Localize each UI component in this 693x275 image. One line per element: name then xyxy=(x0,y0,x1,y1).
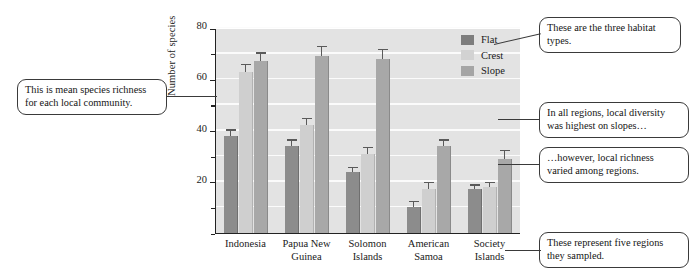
bar-crest[interactable] xyxy=(239,72,253,233)
error-bar-stem xyxy=(382,49,383,59)
x-axis-label-line1: Papua New xyxy=(276,238,337,251)
x-axis-labels: IndonesiaPapua NewGuineaSolomonIslandsAm… xyxy=(215,238,520,274)
callout-varied-regions: …however, local richness varied among re… xyxy=(539,147,689,183)
error-bar-stem xyxy=(260,52,261,61)
error-bar-cap xyxy=(302,118,312,119)
bar-body xyxy=(224,136,239,233)
bar-group xyxy=(338,29,399,233)
x-axis-label: AmericanSamoa xyxy=(398,238,459,263)
x-axis-label: Indonesia xyxy=(215,238,276,251)
legend-swatch-slope xyxy=(461,66,474,76)
bar-slope[interactable] xyxy=(254,61,268,233)
legend-swatch-crest xyxy=(461,50,474,60)
legend-label: Slope xyxy=(481,65,505,76)
legend-item-slope[interactable]: Slope xyxy=(461,63,505,79)
y-tick-label: 40 xyxy=(197,124,208,135)
callout-mean-richness: This is mean species richness for each l… xyxy=(17,79,167,115)
error-bar-cap xyxy=(424,182,434,183)
bar-crest[interactable] xyxy=(300,125,314,233)
error-bar-cap xyxy=(470,184,480,185)
callout-diversity-slopes-text: In all regions, local diversity was high… xyxy=(547,107,665,131)
leader-line-mean-richness xyxy=(167,96,217,97)
bar-group xyxy=(277,29,338,233)
x-axis-label-line1: American xyxy=(398,238,459,251)
x-axis-label-line1: Solomon xyxy=(337,238,398,251)
x-axis-label: SolomonIslands xyxy=(337,238,398,263)
legend-item-flat[interactable]: Flat xyxy=(461,32,505,48)
callout-habitat-types-text: These are the three habitat types. xyxy=(547,22,656,46)
bar-slope[interactable] xyxy=(315,56,329,233)
bar-body xyxy=(239,72,254,233)
bar-crest[interactable] xyxy=(422,189,436,233)
x-axis-label-line2: Islands xyxy=(337,251,398,264)
error-bar-cap xyxy=(256,52,266,53)
figure-container: Number of species 20406080 IndonesiaPapu… xyxy=(0,0,693,275)
bar-flat[interactable] xyxy=(407,207,421,233)
error-bar-cap xyxy=(348,167,358,168)
bar-slope[interactable] xyxy=(498,159,512,233)
error-bar-stem xyxy=(504,150,505,159)
error-bar-cap xyxy=(439,139,449,140)
bar-body xyxy=(346,172,361,234)
bar-body xyxy=(437,146,452,233)
error-bar-cap xyxy=(317,46,327,47)
callout-varied-regions-text: …however, local richness varied among re… xyxy=(547,152,654,176)
callout-diversity-slopes: In all regions, local diversity was high… xyxy=(539,102,689,138)
y-tick-label: 60 xyxy=(197,72,208,83)
callout-five-regions: These represent five regions they sample… xyxy=(539,232,689,268)
bar-body xyxy=(422,189,437,233)
error-bar-cap xyxy=(485,182,495,183)
bar-body xyxy=(361,154,376,233)
bar-body xyxy=(285,146,300,233)
error-bar-cap xyxy=(378,49,388,50)
x-axis-label-line2: Islands xyxy=(459,251,520,264)
leader-line-five-regions xyxy=(505,250,541,251)
error-bar-cap xyxy=(241,64,251,65)
x-axis-label-line2: Guinea xyxy=(276,251,337,264)
x-axis-label-line1: Indonesia xyxy=(215,238,276,251)
callout-five-regions-text: These represent five regions they sample… xyxy=(547,237,663,261)
bar-crest[interactable] xyxy=(483,187,497,233)
x-axis-label-line2: Samoa xyxy=(398,251,459,264)
y-tick-label: 20 xyxy=(197,175,208,186)
error-bar-stem xyxy=(321,46,322,56)
error-bar-cap xyxy=(363,147,373,148)
error-bar-cap xyxy=(500,150,510,151)
bar-body xyxy=(254,61,269,233)
bar-slope[interactable] xyxy=(376,59,390,233)
chart-legend: FlatCrestSlope xyxy=(461,32,505,79)
x-axis-label: Papua NewGuinea xyxy=(276,238,337,263)
bar-body xyxy=(407,207,422,233)
error-bar-cap xyxy=(287,139,297,140)
bar-body xyxy=(315,56,330,233)
x-axis-label-line1: Society xyxy=(459,238,520,251)
legend-swatch-flat xyxy=(461,35,474,45)
bar-body xyxy=(300,125,315,233)
bar-flat[interactable] xyxy=(285,146,299,233)
bar-body xyxy=(483,187,498,233)
legend-item-crest[interactable]: Crest xyxy=(461,48,505,64)
bar-body xyxy=(376,59,391,233)
gridline xyxy=(216,27,520,28)
bar-flat[interactable] xyxy=(224,136,238,233)
leader-line-diversity-slopes xyxy=(498,119,540,120)
leader-line-varied-regions xyxy=(498,164,540,165)
bar-group xyxy=(399,29,460,233)
bar-body xyxy=(468,189,483,233)
callout-habitat-types: These are the three habitat types. xyxy=(539,17,681,53)
bar-group xyxy=(216,29,277,233)
y-tick-label: 80 xyxy=(197,21,208,32)
bar-flat[interactable] xyxy=(346,172,360,234)
bar-flat[interactable] xyxy=(468,189,482,233)
legend-label: Crest xyxy=(481,50,503,61)
error-bar-cap xyxy=(409,201,419,202)
bar-body xyxy=(498,159,513,233)
y-axis-ticks: 20406080 xyxy=(0,29,215,235)
callout-mean-richness-text: This is mean species richness for each l… xyxy=(25,84,146,108)
error-bar-cap xyxy=(226,129,236,130)
bar-crest[interactable] xyxy=(361,154,375,233)
bar-slope[interactable] xyxy=(437,146,451,233)
